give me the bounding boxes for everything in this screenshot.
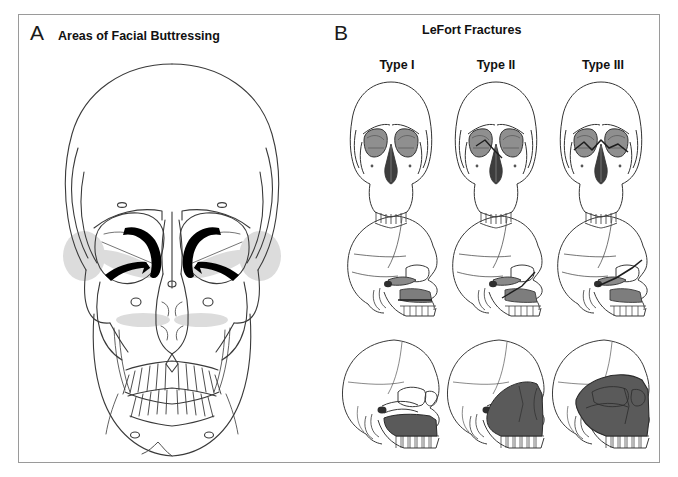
mental-foramen-right: [205, 432, 214, 438]
oblique-skull-type-2: [447, 340, 544, 448]
oblique-skull-type-1: [342, 340, 439, 448]
figure-root: A Areas of Facial Buttressing B LeFort F…: [0, 0, 678, 477]
upper-teeth: [123, 364, 221, 394]
fracture-segment-type-1: [384, 414, 437, 436]
panel-a-letter: A: [30, 22, 44, 43]
supraorbital-foramen-right: [218, 203, 227, 208]
panel-a-illustration: [22, 52, 322, 457]
supraorbital-foramen-left: [118, 203, 127, 208]
infraorbital-foramen-left: [131, 298, 141, 306]
column-label-type-3: Type III: [556, 59, 650, 72]
frontal-skull-type-3: [560, 82, 641, 228]
frontal-skull-type-2: [455, 82, 536, 228]
lateral-skull-type-1: [348, 216, 437, 316]
column-label-type-2: Type II: [451, 59, 541, 72]
panel-b-letter: B: [334, 22, 348, 43]
row-frontal: [350, 82, 641, 228]
column-label-type-1: Type I: [352, 59, 442, 72]
mental-foramen-left: [131, 432, 140, 438]
infraorbital-foramen-right: [203, 298, 213, 306]
row-lateral: [348, 216, 647, 316]
row-oblique: [342, 340, 649, 448]
panel-b-title: LeFort Fractures: [422, 24, 521, 37]
panel-b-illustration: [336, 78, 656, 458]
panel-a-title: Areas of Facial Buttressing: [58, 30, 220, 43]
frontal-skull-type-1: [350, 82, 431, 228]
oblique-skull-type-3: [552, 340, 649, 448]
lateral-skull-type-2: [453, 216, 542, 316]
